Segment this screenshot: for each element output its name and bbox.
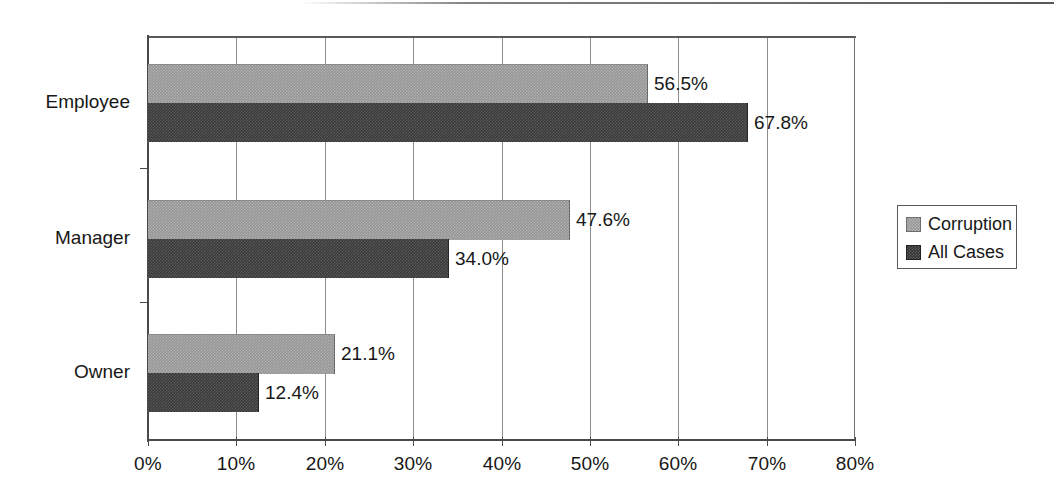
y-axis-tick bbox=[140, 302, 148, 303]
category-label-employee: Employee bbox=[0, 91, 130, 113]
bar-manager-corruption bbox=[148, 200, 570, 240]
legend-label-corruption: Corruption bbox=[928, 214, 1012, 235]
bar-value-label: 12.4% bbox=[265, 373, 319, 412]
bar-employee-allcases bbox=[148, 103, 748, 142]
bar-value-label: 34.0% bbox=[455, 239, 509, 278]
bar-employee-corruption bbox=[148, 64, 648, 104]
x-axis-tick-label: 20% bbox=[290, 453, 360, 475]
bar-manager-allcases bbox=[148, 239, 449, 278]
x-axis-tick bbox=[413, 437, 414, 446]
legend-swatch-all-cases-icon bbox=[906, 245, 921, 260]
x-axis-tick bbox=[236, 437, 237, 446]
bar-value-label: 47.6% bbox=[576, 200, 630, 239]
bar-chart: 0%10%20%30%40%50%60%70%80% EmployeeManag… bbox=[0, 0, 1054, 502]
y-axis-tick bbox=[140, 168, 148, 169]
x-axis-tick bbox=[325, 437, 326, 446]
x-axis-tick-label: 80% bbox=[820, 453, 890, 475]
scan-artifact-line bbox=[300, 2, 1054, 4]
plot-right-border bbox=[854, 36, 855, 441]
x-axis-tick bbox=[590, 437, 591, 446]
x-axis-tick bbox=[855, 437, 856, 446]
chart-legend: Corruption All Cases bbox=[897, 205, 1017, 269]
x-axis-tick bbox=[502, 437, 503, 446]
category-label-manager: Manager bbox=[0, 227, 130, 249]
x-axis-tick bbox=[148, 437, 149, 446]
bar-value-label: 56.5% bbox=[654, 64, 708, 103]
legend-swatch-corruption-icon bbox=[906, 217, 921, 232]
x-axis-tick-label: 0% bbox=[113, 453, 183, 475]
x-axis-tick-label: 10% bbox=[201, 453, 271, 475]
x-axis-tick-label: 70% bbox=[732, 453, 802, 475]
x-axis-tick-label: 30% bbox=[378, 453, 448, 475]
bar-owner-allcases bbox=[148, 373, 259, 412]
category-label-owner: Owner bbox=[0, 361, 130, 383]
legend-item-corruption: Corruption bbox=[906, 212, 1012, 236]
x-axis-tick-label: 40% bbox=[467, 453, 537, 475]
bar-value-label: 21.1% bbox=[341, 334, 395, 373]
x-axis-tick bbox=[678, 437, 679, 446]
legend-label-all-cases: All Cases bbox=[928, 242, 1004, 263]
x-axis-tick-label: 60% bbox=[643, 453, 713, 475]
gridline bbox=[767, 38, 768, 439]
bar-owner-corruption bbox=[148, 334, 335, 374]
x-axis-tick-label: 50% bbox=[555, 453, 625, 475]
bar-value-label: 67.8% bbox=[754, 103, 808, 142]
x-axis-tick bbox=[767, 437, 768, 446]
legend-item-all-cases: All Cases bbox=[906, 240, 1004, 264]
